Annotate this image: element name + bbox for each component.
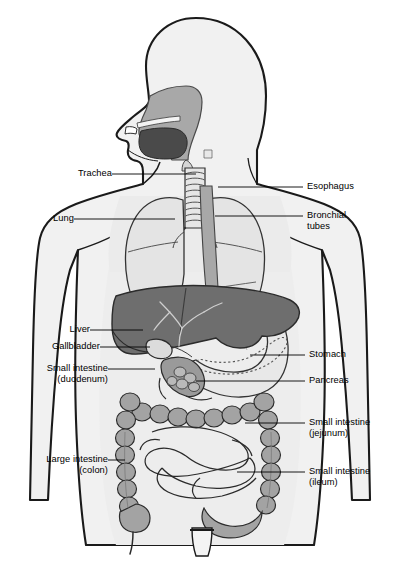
label-liver-text: Liver xyxy=(70,324,90,334)
label-esophagus-text: Esophagus xyxy=(307,181,354,191)
label-pancreas: Pancreas xyxy=(309,375,349,386)
label-small-intestine-ileum: Small intestine (ileum) xyxy=(309,466,370,489)
label-lung: Lung xyxy=(8,213,74,224)
label-bronchial-tubes-subtext: tubes xyxy=(307,221,346,232)
label-gallbladder-text: Gallbladder xyxy=(52,341,100,351)
label-small-intestine-duodenum: Small intestine (duodenum) xyxy=(8,363,108,386)
watermark xyxy=(0,556,400,578)
label-bronchial-tubes-text: Bronchial xyxy=(307,210,346,220)
label-duodenum-text: Small intestine xyxy=(47,363,108,373)
anatomy-diagram-figure: Trachea Lung Liver Gallbladder Small int… xyxy=(0,0,400,578)
anatomy-illustration xyxy=(0,0,400,578)
label-jejunum-text: Small intestine xyxy=(309,417,370,427)
rectum xyxy=(190,528,214,556)
label-jejunum-subtext: (jejunum) xyxy=(309,428,370,439)
label-pancreas-text: Pancreas xyxy=(309,375,349,385)
label-duodenum-subtext: (duodenum) xyxy=(8,374,108,385)
label-ileum-subtext: (ileum) xyxy=(309,477,370,488)
label-esophagus: Esophagus xyxy=(307,181,354,192)
label-liver: Liver xyxy=(8,324,90,335)
label-small-intestine-jejunum: Small intestine (jejunum) xyxy=(309,417,370,440)
label-stomach: Stomach xyxy=(309,349,346,360)
label-trachea: Trachea xyxy=(8,168,112,179)
label-large-intestine-colon: Large intestine (colon) xyxy=(8,454,108,477)
label-ileum-text: Small intestine xyxy=(309,466,370,476)
label-trachea-text: Trachea xyxy=(78,168,112,178)
label-stomach-text: Stomach xyxy=(309,349,346,359)
label-lung-text: Lung xyxy=(53,213,74,223)
label-bronchial-tubes: Bronchial tubes xyxy=(307,210,346,233)
label-colon-text: Large intestine xyxy=(46,454,108,464)
label-gallbladder: Gallbladder xyxy=(8,341,100,352)
label-colon-subtext: (colon) xyxy=(8,465,108,476)
